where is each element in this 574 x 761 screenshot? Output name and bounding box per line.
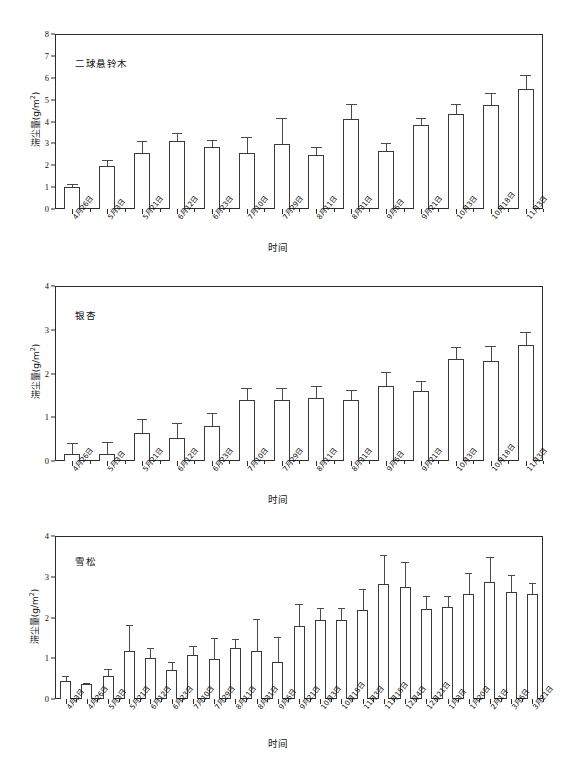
error-bar-cap [62, 676, 69, 677]
y-tick-label: 1 [31, 182, 49, 192]
bar [527, 594, 538, 699]
error-bar-cap [451, 347, 462, 348]
error-bar-stem [247, 137, 248, 153]
bar [483, 105, 499, 209]
error-bar-stem [511, 575, 512, 592]
error-bar-stem [526, 332, 527, 346]
error-bar-stem [214, 638, 215, 659]
bar [274, 144, 290, 209]
error-bar-stem [72, 443, 73, 454]
x-minor-tick-mark [194, 461, 195, 464]
x-minor-tick-mark [194, 209, 195, 212]
x-minor-tick-mark [299, 461, 300, 464]
error-bar-cap [172, 423, 183, 424]
y-tick-mark [51, 617, 55, 618]
error-bar-cap [346, 390, 357, 391]
error-bar-cap [211, 638, 218, 639]
error-bar-stem [150, 648, 151, 658]
y-tick-mark [51, 576, 55, 577]
error-bar-stem [316, 386, 317, 398]
bar [239, 153, 255, 209]
bar [518, 89, 534, 209]
y-tick-mark [51, 699, 55, 700]
bar [378, 151, 394, 209]
error-bar-stem [212, 413, 213, 425]
chart-panel-2: 银杏 滞尘量(g/m2) 01234 4月26日5月3日5月21日6月12日6月… [0, 270, 574, 510]
x-minor-tick-mark [369, 209, 370, 212]
y-tick-label: 0 [31, 694, 49, 704]
error-bar-cap [520, 332, 531, 333]
error-bar-cap [520, 75, 531, 76]
bar [378, 584, 389, 699]
error-bar-stem [129, 625, 130, 651]
error-bar-cap [346, 104, 357, 105]
error-bar-stem [235, 639, 236, 648]
error-bar-cap [423, 596, 430, 597]
error-bar-cap [67, 443, 78, 444]
bar [378, 386, 394, 461]
x-minor-tick-mark [264, 209, 265, 212]
error-bar-cap [102, 442, 113, 443]
y-tick-label: 0 [31, 204, 49, 214]
x-minor-tick-mark [229, 461, 230, 464]
y-tick-mark [51, 329, 55, 330]
bar [518, 345, 534, 461]
error-bar-stem [421, 381, 422, 391]
error-bar-stem [320, 608, 321, 619]
y-tick-mark [51, 658, 55, 659]
y-tick-label: 4 [31, 117, 49, 127]
error-bar-cap [416, 381, 427, 382]
y-tick-mark [51, 286, 55, 287]
error-bar-cap [317, 608, 324, 609]
x-minor-tick-mark [473, 461, 474, 464]
x-minor-tick-mark [90, 209, 91, 212]
x-minor-tick-mark [90, 461, 91, 464]
chart-title-2: 银杏 [75, 308, 96, 322]
x-minor-tick-mark [334, 209, 335, 212]
error-bar-stem [351, 390, 352, 400]
error-bar-stem [469, 573, 470, 594]
y-tick-mark [51, 417, 55, 418]
error-bar-stem [177, 423, 178, 438]
error-bar-stem [299, 604, 300, 626]
error-bar-stem [282, 118, 283, 144]
y-tick-mark [51, 209, 55, 210]
error-bar-stem [456, 347, 457, 359]
error-bar-cap [311, 147, 322, 148]
figure-page: 二球悬铃木 滞尘量(g/m2) 012345678 4月26日5月3日5月21日… [0, 0, 574, 761]
error-bar-stem [384, 555, 385, 584]
error-bar-cap [253, 619, 260, 620]
error-bar-stem [405, 562, 406, 586]
y-tick-label: 3 [31, 138, 49, 148]
x-minor-tick-mark [438, 209, 439, 212]
x-minor-tick-mark [160, 209, 161, 212]
bar [99, 166, 115, 209]
bar [308, 155, 324, 209]
y-tick-mark [51, 536, 55, 537]
x-axis-label-1: 时间 [268, 240, 288, 254]
error-bar-cap [102, 160, 113, 161]
error-bar-cap [207, 413, 218, 414]
error-bar-stem [426, 596, 427, 608]
error-bar-cap [508, 575, 515, 576]
error-bar-stem [490, 557, 491, 583]
error-bar-cap [451, 104, 462, 105]
error-bar-cap [276, 388, 287, 389]
error-bar-stem [278, 637, 279, 662]
error-bar-stem [257, 619, 258, 651]
error-bar-stem [386, 143, 387, 152]
y-tick-label: 2 [31, 160, 49, 170]
bar [483, 361, 499, 461]
error-bar-cap [274, 637, 281, 638]
y-tick-mark [51, 143, 55, 144]
error-bar-cap [104, 669, 111, 670]
error-bar-stem [526, 75, 527, 89]
x-minor-tick-mark [473, 209, 474, 212]
x-minor-tick-mark [404, 461, 405, 464]
y-tick-label: 2 [31, 369, 49, 379]
x-minor-tick-mark [299, 209, 300, 212]
error-bar-cap [485, 93, 496, 94]
error-bar-cap [295, 604, 302, 605]
chart-panel-1: 二球悬铃木 滞尘量(g/m2) 012345678 4月26日5月3日5月21日… [0, 18, 574, 258]
y-tick-label: 3 [31, 572, 49, 582]
